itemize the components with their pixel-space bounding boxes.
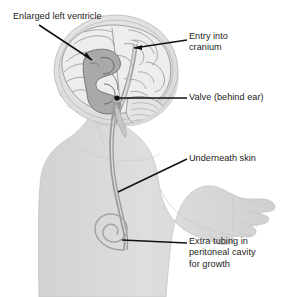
label-extra-tubing-peritoneal-cavity: Extra tubing in peritoneal cavity for gr… — [189, 236, 256, 270]
label-underneath-skin: Underneath skin — [189, 153, 256, 164]
vp-shunt-figure: Enlarged left ventricle Entry into crani… — [0, 0, 282, 297]
label-valve-behind-ear: Valve (behind ear) — [189, 92, 264, 103]
label-enlarged-left-ventricle: Enlarged left ventricle — [13, 11, 102, 22]
label-entry-into-cranium: Entry into cranium — [189, 31, 228, 54]
